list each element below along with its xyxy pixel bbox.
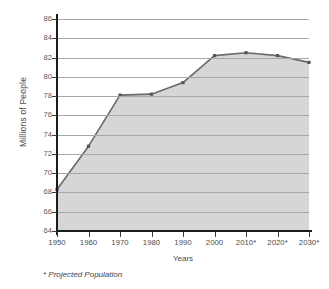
y-axis-tick-label: 76 [30,111,52,119]
population-line-chart: Millions of People 868482807876747270686… [0,0,329,289]
x-axis-tick-mark [57,232,58,237]
footnote-projected-population: * Projected Population [43,270,122,279]
y-axis-tick-label: 70 [30,169,52,177]
gridline [57,154,309,155]
y-axis-tick-mark [52,38,57,39]
x-axis-title: Years [57,254,309,263]
x-axis-tick-mark [120,232,121,237]
x-axis-tick-mark [183,232,184,237]
y-axis-tick-labels: 868482807876747270686664 [28,19,52,231]
gridline [57,115,309,116]
y-axis-tick-label: 68 [30,188,52,196]
gridline [57,38,309,39]
y-axis-tick-label: 78 [30,92,52,100]
y-axis-tick-mark [52,77,57,78]
y-axis-tick-label: 80 [30,73,52,81]
gridline [57,77,309,78]
series-area-chart [57,19,309,231]
x-axis-line [56,230,312,232]
x-axis-tick-mark [246,232,247,237]
y-axis-line [56,14,58,235]
y-axis-tick-label: 72 [30,150,52,158]
x-axis-tick-mark [278,232,279,237]
area-fill [57,53,309,231]
data-point-marker [181,81,184,84]
y-axis-tick-label: 84 [30,34,52,42]
y-axis-tick-mark [52,192,57,193]
y-axis-tick-mark [52,115,57,116]
y-axis-tick-mark [52,173,57,174]
data-point-marker [307,61,310,64]
gridline [57,192,309,193]
y-axis-tick-label: 66 [30,208,52,216]
data-point-marker [87,145,90,148]
x-axis-tick-mark [309,232,310,237]
data-point-marker [244,51,247,54]
y-axis-tick-label: 64 [30,227,52,235]
y-axis-tick-mark [52,212,57,213]
y-axis-tick-label: 86 [30,15,52,23]
x-axis-tick-mark [152,232,153,237]
gridline [57,96,309,97]
y-axis-tick-mark [52,154,57,155]
x-axis-tick-mark [89,232,90,237]
x-axis-tick-mark [215,232,216,237]
plot-area [57,19,309,231]
y-axis-tick-mark [52,58,57,59]
gridline [57,135,309,136]
gridline [57,58,309,59]
y-axis-tick-mark [52,19,57,20]
y-axis-tick-mark [52,96,57,97]
gridline [57,173,309,174]
y-axis-tick-label: 82 [30,54,52,62]
y-axis-title: Millions of People [18,42,28,182]
gridline [57,212,309,213]
y-axis-tick-mark [52,135,57,136]
y-axis-tick-label: 74 [30,131,52,139]
gridline [57,19,309,20]
x-axis-tick-label: 2030* [289,239,329,247]
